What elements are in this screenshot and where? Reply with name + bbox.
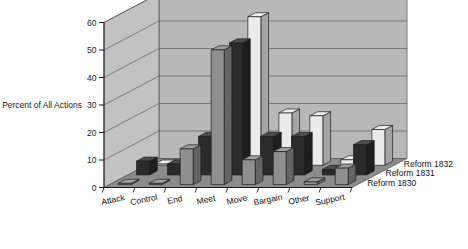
x-tick-2 bbox=[164, 188, 166, 193]
bar-reform-1830-support bbox=[335, 164, 356, 185]
bar-side-reform-1830-end bbox=[193, 145, 201, 185]
bar-reform-1831-meet bbox=[230, 39, 251, 175]
bar-side-reform-1832-support bbox=[385, 125, 393, 165]
legend-label-reform-1831: Reform 1831 bbox=[386, 168, 435, 178]
bar-front-reform-1830-meet bbox=[211, 50, 224, 185]
y-tick-label-60: 60 bbox=[87, 18, 97, 28]
bar-front-reform-1830-control bbox=[149, 183, 162, 184]
legend-label-reform-1832: Reform 1832 bbox=[404, 159, 453, 169]
y-tick-label-10: 10 bbox=[87, 155, 97, 165]
bar-front-reform-1831-attack bbox=[137, 161, 150, 175]
category-label-attack: Attack bbox=[100, 192, 126, 207]
bar-side-reform-1830-meet bbox=[224, 46, 232, 185]
category-label-move: Move bbox=[226, 192, 249, 206]
category-axis: AttackControlEndMeetMoveBargainOtherSupp… bbox=[100, 188, 352, 208]
chart-geometry: 0102030405060Percent of All ActionsAttac… bbox=[2, 0, 453, 208]
bar-front-reform-1830-support bbox=[335, 168, 348, 185]
y-tick-label-30: 30 bbox=[87, 100, 97, 110]
x-tick-8 bbox=[350, 188, 352, 193]
bar-front-reform-1830-end bbox=[180, 149, 193, 185]
bar-side-reform-1831-meet bbox=[243, 39, 251, 175]
bar-reform-1831-attack bbox=[137, 157, 158, 175]
category-label-meet: Meet bbox=[196, 193, 217, 207]
y-tick-label-0: 0 bbox=[92, 183, 97, 193]
y-tick-label-50: 50 bbox=[87, 45, 97, 55]
x-tick-4 bbox=[226, 188, 228, 193]
x-tick-0 bbox=[102, 188, 104, 193]
bar-side-reform-1830-move bbox=[255, 156, 263, 185]
y-tick-label-40: 40 bbox=[87, 73, 97, 83]
category-label-support: Support bbox=[314, 191, 346, 207]
x-tick-7 bbox=[319, 188, 321, 193]
bar-side-reform-1831-support bbox=[367, 141, 375, 175]
category-label-other: Other bbox=[287, 192, 310, 206]
bar-front-reform-1831-other bbox=[323, 169, 336, 175]
y-tick-label-20: 20 bbox=[87, 128, 97, 138]
bar-reform-1831-bargain bbox=[292, 132, 313, 175]
bar-reform-1832-bargain bbox=[310, 112, 331, 166]
x-tick-3 bbox=[195, 188, 197, 193]
bar-reform-1830-end bbox=[180, 145, 201, 185]
category-label-bargain: Bargain bbox=[253, 192, 284, 208]
bar-front-reform-1830-bargain bbox=[273, 152, 286, 185]
bar-reform-1831-support bbox=[354, 141, 375, 175]
legend-label-reform-1830: Reform 1830 bbox=[367, 178, 416, 188]
chart-container: 0102030405060Percent of All ActionsAttac… bbox=[0, 0, 468, 249]
bar-front-reform-1830-attack bbox=[118, 183, 131, 184]
bar-reform-1830-meet bbox=[211, 46, 232, 185]
x-tick-5 bbox=[257, 188, 259, 193]
bar-front-reform-1831-control bbox=[168, 164, 181, 175]
bar-side-reform-1832-bargain bbox=[323, 112, 331, 166]
bar-reform-1832-support bbox=[372, 125, 393, 165]
bar-front-reform-1830-move bbox=[242, 160, 255, 185]
x-tick-6 bbox=[288, 188, 290, 193]
category-label-control: Control bbox=[129, 192, 158, 208]
bar-chart-3d: 0102030405060Percent of All ActionsAttac… bbox=[0, 0, 468, 249]
bar-reform-1830-bargain bbox=[273, 148, 294, 185]
bar-reform-1830-move bbox=[242, 156, 263, 185]
category-label-end: End bbox=[166, 193, 183, 206]
bar-front-reform-1830-other bbox=[304, 182, 317, 185]
x-tick-1 bbox=[133, 188, 135, 193]
bar-side-reform-1830-bargain bbox=[286, 148, 294, 185]
y-axis-title: Percent of All Actions bbox=[2, 100, 82, 110]
bar-side-reform-1831-bargain bbox=[305, 132, 313, 175]
